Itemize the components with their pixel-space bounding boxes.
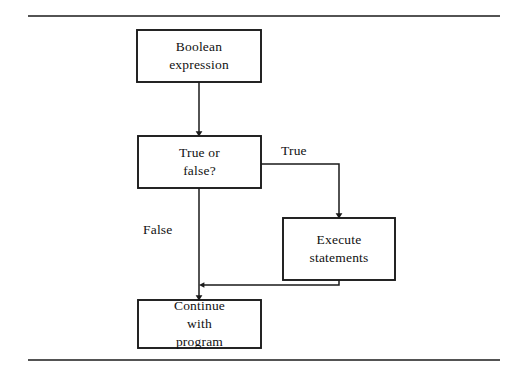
node-boolean-expression (137, 30, 261, 82)
edge-label-false: False (143, 222, 173, 238)
edge-execute-to-continue-arrowhead (199, 282, 204, 288)
node-continue-program (138, 300, 261, 348)
node-execute-statements (283, 218, 395, 280)
flowchart-figure: Boolean expression True or false? Execut… (0, 0, 527, 374)
node-decision (138, 136, 261, 188)
edge-decision-true (261, 164, 339, 216)
flowchart-canvas (0, 0, 527, 374)
edge-label-true: True (281, 143, 307, 159)
